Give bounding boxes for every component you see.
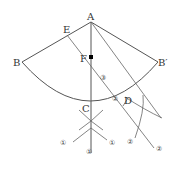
point-F-marker [89, 55, 93, 59]
construction-arc-2b [135, 95, 143, 138]
mark-1-bottom: ① [86, 148, 92, 156]
mark-2-right: ② [156, 145, 162, 153]
mark-1-right: ① [109, 139, 115, 147]
mark-3: ③ [100, 74, 106, 82]
geometry-diagram: A E B B′ F C D ③ ② ① ① ① ② ② [0, 0, 182, 169]
mark-1-left: ① [60, 139, 66, 147]
label-D: D [124, 95, 132, 106]
label-B-prime: B′ [158, 57, 168, 68]
label-C: C [82, 103, 90, 114]
segment-AB-prime [91, 22, 158, 62]
leader-1-left [73, 128, 91, 142]
mark-2-top: ② [112, 95, 118, 103]
label-B: B [13, 57, 20, 68]
label-A: A [86, 11, 95, 22]
arc-BB-prime [22, 62, 158, 101]
label-F: F [80, 53, 87, 64]
mark-2-left: ② [127, 138, 133, 146]
leader-1-right [91, 128, 107, 140]
label-E: E [63, 24, 70, 35]
